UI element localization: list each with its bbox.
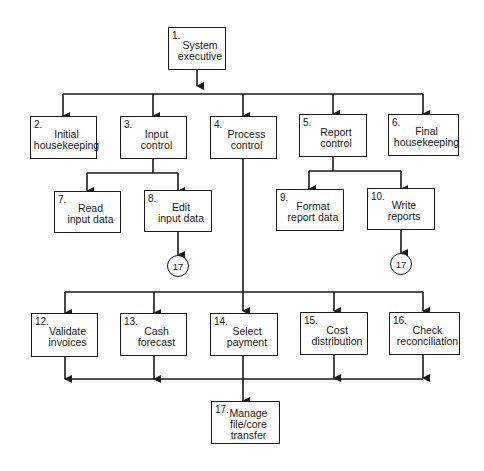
connector-label: 17 (173, 261, 184, 272)
node-label: Validate invoices (32, 314, 97, 356)
node-label: Select payment (211, 314, 277, 355)
node-label: Manage file/core transfer (212, 402, 279, 443)
off-page-connector: 17 (390, 253, 412, 275)
node-final-housekeeping: 6. Final housekeeping (388, 114, 459, 156)
node-label: System executive (169, 28, 225, 69)
node-write-reports: 10. Write reports (367, 188, 435, 230)
off-page-connector: 17 (167, 255, 189, 277)
connector-label: 17 (396, 259, 407, 270)
node-manage-file-core-transfer: 17. Manage file/core transfer (211, 401, 280, 444)
node-label: Read input data (55, 192, 120, 232)
node-input-control: 3. Input control (120, 116, 187, 159)
node-label: Report control (300, 115, 366, 156)
node-label: Input control (121, 117, 186, 158)
node-initial-housekeeping: 2. Initial housekeeping (30, 116, 97, 159)
node-label: Check reconciliation (390, 313, 459, 354)
node-label: Cash forecast (121, 314, 186, 355)
node-label: Final housekeeping (389, 115, 458, 155)
node-label: Format report data (277, 190, 343, 230)
node-format-report-data: 9. Format report data (276, 189, 344, 231)
node-edit-input-data: 8. Edit input data (144, 190, 212, 232)
node-process-control: 4. Process control (210, 116, 277, 159)
node-system-executive: 1. System executive (168, 27, 226, 70)
node-report-control: 5. Report control (299, 114, 367, 157)
node-cost-distribution: 15. Cost distribution (300, 312, 368, 355)
node-check-reconciliation: 16. Check reconciliation (389, 312, 460, 355)
node-validate-invoices: 12. Validate invoices (31, 313, 98, 357)
node-label: Initial housekeeping (31, 117, 96, 158)
node-read-input-data: 7. Read input data (54, 191, 121, 233)
node-cash-forecast: 13. Cash forecast (120, 313, 187, 356)
node-select-payment: 14. Select payment (210, 313, 278, 356)
node-label: Edit input data (145, 191, 211, 231)
node-label: Process control (211, 117, 276, 158)
node-label: Write reports (368, 189, 434, 229)
node-label: Cost distribution (301, 313, 367, 354)
